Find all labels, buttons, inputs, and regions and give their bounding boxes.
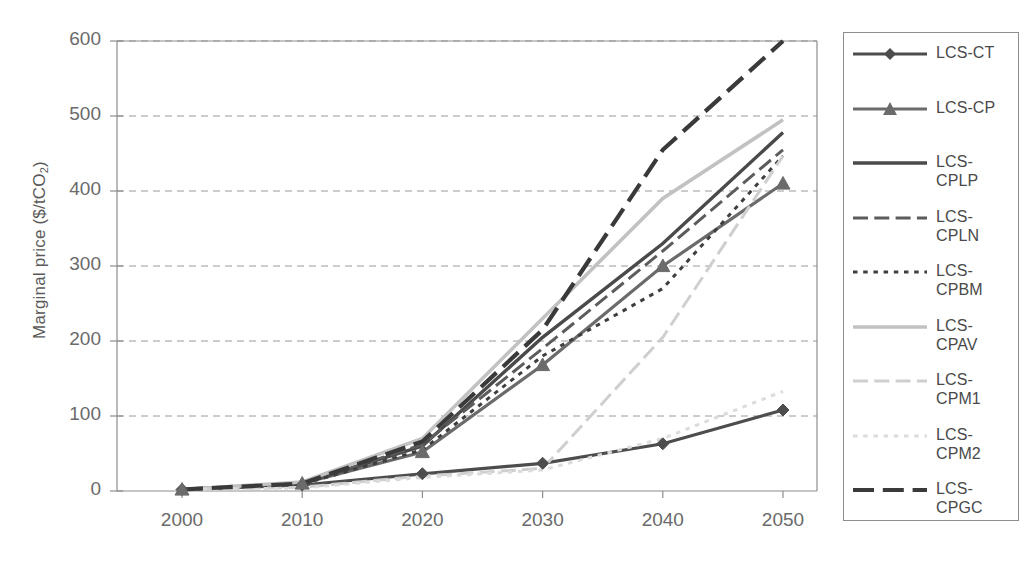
data-point-marker-lcs-cp	[776, 177, 790, 190]
legend-item-lcs-ct[interactable]: LCS-CT	[844, 43, 1020, 62]
legend-item-label: LCS- CPLP	[936, 152, 978, 190]
legend-item-label: LCS-CP	[936, 98, 995, 117]
y-tick-label: 300	[45, 253, 101, 275]
x-tick-label: 2030	[498, 509, 588, 531]
legend-item-label: LCS- CPGC	[936, 479, 983, 517]
y-tick-label: 600	[45, 28, 101, 50]
gridlines	[117, 41, 817, 416]
y-tick-label: 400	[45, 178, 101, 200]
line-chart-figure: Marginal price ($/tCO2) 0100200300400500…	[0, 0, 835, 562]
x-tick-label: 2040	[618, 509, 708, 531]
legend-item-lcs-cpln[interactable]: LCS- CPLN	[844, 207, 1020, 245]
legend-swatch-lcs-cpln	[852, 210, 928, 226]
series-line-lcs-cpbm	[182, 156, 783, 490]
legend-item-label: LCS- CPM2	[936, 425, 981, 463]
legend-swatch-lcs-cpm1	[852, 373, 928, 389]
legend-swatch-lcs-cpav	[852, 319, 928, 335]
legend-swatch-lcs-cpbm	[852, 264, 928, 280]
legend-item-lcs-cpm1[interactable]: LCS- CPM1	[844, 370, 1020, 408]
series-line-lcs-ct	[182, 410, 783, 490]
chart-page: Marginal price ($/tCO2) 0100200300400500…	[0, 0, 1035, 562]
legend-marker	[884, 48, 896, 60]
x-tick-label: 2020	[377, 509, 467, 531]
legend-item-lcs-cp[interactable]: LCS-CP	[844, 98, 1020, 117]
legend-item-label: LCS- CPM1	[936, 370, 981, 408]
series-lines	[182, 41, 783, 490]
legend-swatch-lcs-cplp	[852, 155, 928, 171]
legend-item-label: LCS-CT	[936, 43, 994, 62]
x-tick-label: 2010	[257, 509, 347, 531]
data-point-marker-lcs-ct	[537, 457, 549, 469]
legend-item-lcs-cplp[interactable]: LCS- CPLP	[844, 152, 1020, 190]
y-tick-label: 100	[45, 403, 101, 425]
series-markers	[175, 177, 790, 496]
data-point-marker-lcs-ct	[777, 404, 789, 416]
legend-swatch-lcs-cpgc	[852, 482, 928, 498]
series-line-lcs-cpln	[182, 150, 783, 490]
x-tick-label: 2000	[137, 509, 227, 531]
series-line-lcs-cpgc	[182, 41, 783, 490]
legend-item-label: LCS- CPBM	[936, 261, 983, 299]
legend-item-lcs-cpav[interactable]: LCS- CPAV	[844, 316, 1020, 354]
legend-item-label: LCS- CPAV	[936, 316, 978, 354]
legend-swatch-lcs-cp	[852, 101, 928, 117]
series-line-lcs-cpm2	[182, 391, 783, 489]
legend-item-lcs-cpbm[interactable]: LCS- CPBM	[844, 261, 1020, 299]
plot-canvas	[0, 0, 835, 562]
y-tick-label: 200	[45, 328, 101, 350]
chart-legend: LCS-CTLCS-CPLCS- CPLPLCS- CPLNLCS- CPBML…	[843, 32, 1019, 521]
legend-swatch-lcs-ct	[852, 46, 928, 62]
legend-item-lcs-cpm2[interactable]: LCS- CPM2	[844, 425, 1020, 463]
x-tick-label: 2050	[738, 509, 828, 531]
legend-swatch-lcs-cpm2	[852, 428, 928, 444]
y-tick-label: 500	[45, 103, 101, 125]
series-line-lcs-cpm1	[182, 156, 783, 490]
y-tick-label: 0	[45, 478, 101, 500]
series-line-lcs-cp	[182, 184, 783, 490]
legend-item-lcs-cpgc[interactable]: LCS- CPGC	[844, 479, 1020, 517]
legend-item-label: LCS- CPLN	[936, 207, 979, 245]
